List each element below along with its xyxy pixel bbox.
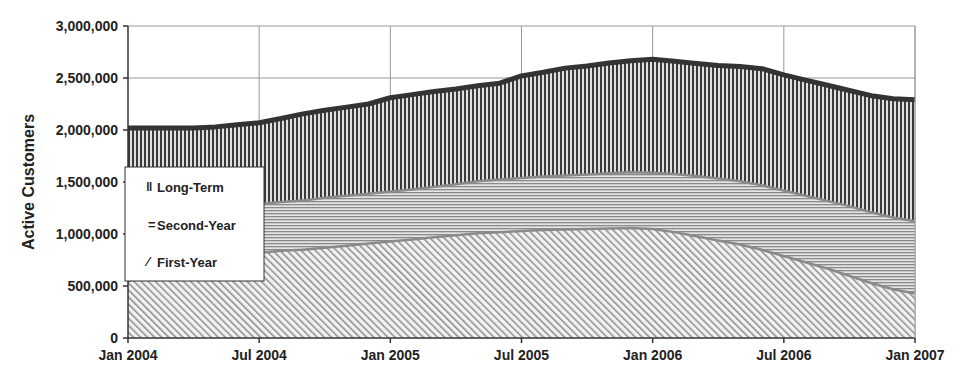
legend-marker-second-year: =: [148, 217, 156, 232]
y-tick-label: 0: [110, 330, 118, 346]
y-tick-label: 3,000,000: [56, 18, 118, 34]
legend-label-first-year: First-Year: [157, 255, 217, 270]
x-tick-label: Jan 2007: [885, 347, 944, 363]
y-tick-label: 2,500,000: [56, 70, 118, 86]
x-tick-label: Jan 2006: [623, 347, 682, 363]
y-tick-label: 500,000: [67, 278, 118, 294]
legend: ‖ Long-Term = Second-Year ∕ First-Year: [125, 167, 264, 281]
x-tick-label: Jul 2004: [232, 347, 287, 363]
y-tick-label: 2,000,000: [56, 122, 118, 138]
x-tick-label: Jan 2005: [361, 347, 420, 363]
x-tick-label: Jul 2006: [756, 347, 811, 363]
x-axis-ticks: Jan 2004Jul 2004Jan 2005Jul 2005Jan 2006…: [98, 338, 944, 363]
y-tick-label: 1,500,000: [56, 174, 118, 190]
x-tick-label: Jan 2004: [98, 347, 157, 363]
legend-label-second-year: Second-Year: [157, 218, 236, 233]
x-tick-label: Jul 2005: [494, 347, 549, 363]
stacked-area-chart: 0500,0001,000,0001,500,0002,000,0002,500…: [0, 0, 963, 384]
y-tick-label: 1,000,000: [56, 226, 118, 242]
y-axis-title: Active Customers: [20, 114, 37, 250]
legend-item-second-year: = Second-Year: [148, 217, 236, 233]
legend-marker-long-term: ‖: [146, 179, 152, 194]
y-axis-ticks: 0500,0001,000,0001,500,0002,000,0002,500…: [56, 18, 128, 346]
legend-label-long-term: Long-Term: [157, 180, 224, 195]
legend-item-long-term: ‖ Long-Term: [146, 179, 224, 195]
